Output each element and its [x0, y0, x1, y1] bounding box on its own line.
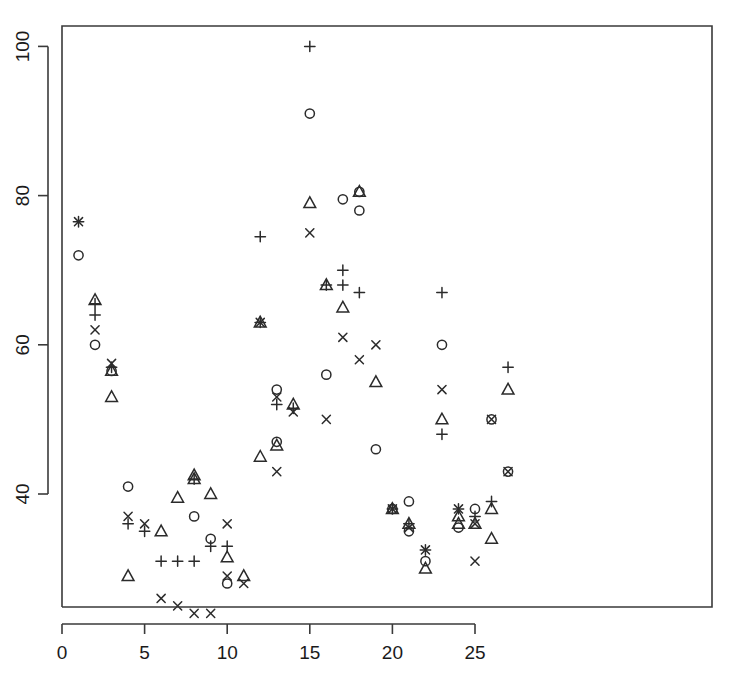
- x-tick-label: 25: [464, 642, 485, 663]
- plot-canvas: 0510152025 406080100: [0, 0, 741, 685]
- y-tick-label: 100: [12, 31, 33, 63]
- x-tick-label: 10: [217, 642, 238, 663]
- x-tick-label: 5: [139, 642, 150, 663]
- x-tick-label: 15: [299, 642, 320, 663]
- scatter-plot-figure: 0510152025 406080100: [0, 0, 741, 685]
- y-tick-label: 40: [12, 483, 33, 504]
- figure-background: [0, 0, 741, 685]
- x-tick-label: 20: [382, 642, 403, 663]
- y-tick-label: 60: [12, 334, 33, 355]
- y-tick-label: 80: [12, 185, 33, 206]
- x-tick-label: 0: [57, 642, 68, 663]
